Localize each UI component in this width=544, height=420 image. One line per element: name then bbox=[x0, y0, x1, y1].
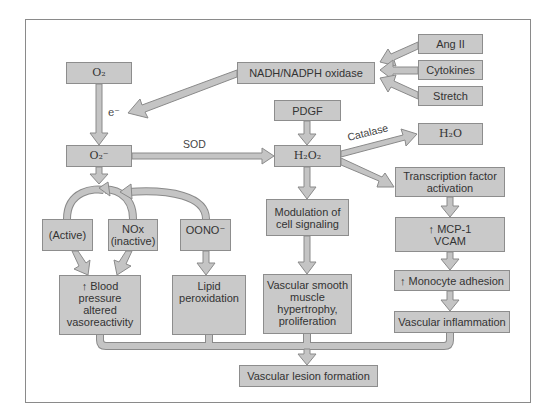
electron-label: e⁻ bbox=[108, 106, 120, 118]
ang-ii-box: Ang II bbox=[418, 34, 483, 54]
vsm-hypertrophy-box: Vascular smooth muscle hypertrophy, prol… bbox=[263, 274, 352, 334]
arrow-nadh-to-electron bbox=[128, 70, 237, 118]
nox-box: NOx (inactive) bbox=[108, 219, 158, 251]
arrow-o2-to-superoxide bbox=[90, 84, 108, 145]
collector-pipe bbox=[100, 333, 450, 346]
superoxide-box: O₂⁻ bbox=[66, 145, 132, 167]
mcp1-vcam-box: ↑ MCP-1 VCAM bbox=[395, 217, 505, 252]
stretch-box: Stretch bbox=[418, 86, 483, 106]
nadh-oxidase-box: NADH/NADPH oxidase bbox=[237, 62, 375, 84]
arrow-h2o2-to-transcription bbox=[341, 158, 394, 187]
o2-box: O₂ bbox=[66, 62, 132, 84]
arrow-angii-to-nadh bbox=[380, 42, 418, 66]
arrow-pdgf-to-h2o2 bbox=[298, 121, 316, 145]
arrow-h2o2-to-modulation bbox=[298, 167, 316, 199]
arrow-monocyte-to-inflammation bbox=[441, 291, 459, 311]
modulation-box: Modulation of cell signaling bbox=[266, 199, 349, 236]
arrow-active-to-bp bbox=[72, 251, 90, 275]
transcription-factor-box: Transcription factor activation bbox=[395, 167, 505, 197]
pdgf-box: PDGF bbox=[274, 100, 341, 121]
arrow-active-nox-cycle bbox=[67, 182, 133, 219]
arrow-transcription-to-mcp bbox=[441, 197, 459, 217]
cytokines-box: Cytokines bbox=[418, 60, 483, 80]
active-box: (Active) bbox=[42, 219, 93, 251]
h2o2-box: H₂O₂ bbox=[274, 145, 341, 167]
arrow-sod bbox=[132, 148, 274, 164]
arrow-modulation-to-vsm bbox=[298, 236, 316, 274]
monocyte-adhesion-box: ↑ Monocyte adhesion bbox=[394, 270, 510, 291]
sod-label: SOD bbox=[183, 138, 206, 150]
arrow-oono-to-lipid bbox=[197, 251, 215, 275]
arrow-to-lesion bbox=[298, 349, 316, 365]
arrow-nox-to-bp bbox=[114, 251, 132, 275]
arrow-mcp-to-monocyte bbox=[441, 252, 459, 270]
arrow-superoxide-down bbox=[90, 167, 108, 184]
h2o-box: H₂O bbox=[418, 123, 483, 145]
vascular-inflammation-box: Vascular inflammation bbox=[394, 311, 510, 333]
vascular-lesion-box: Vascular lesion formation bbox=[239, 365, 378, 387]
arrow-stretch-to-nadh bbox=[380, 75, 418, 99]
blood-pressure-box: ↑ Blood pressure altered vasoreactivity bbox=[59, 275, 141, 335]
lipid-peroxidation-box: Lipid peroxidation bbox=[172, 275, 246, 335]
peroxynitrite-box: OONO⁻ bbox=[180, 219, 231, 251]
